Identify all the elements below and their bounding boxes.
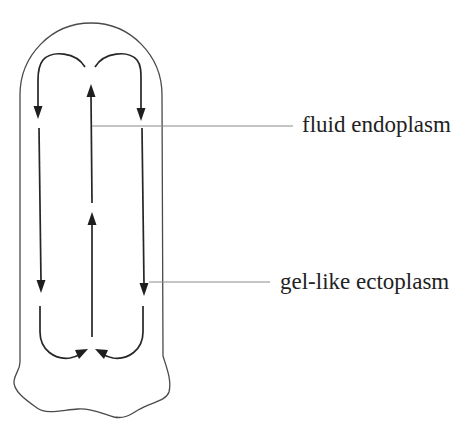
- arrowhead-down-icon: [37, 280, 46, 293]
- center-upper-segment: [91, 95, 92, 203]
- left-middle-segment: [39, 128, 41, 282]
- left-ectoplasm-flow: [34, 54, 89, 359]
- arrowhead-up-icon: [87, 84, 96, 97]
- arrowhead-right-icon: [75, 349, 88, 359]
- arrowhead-down-icon: [137, 108, 146, 121]
- arrowhead-down-icon: [140, 283, 149, 296]
- top-right-arc: [95, 54, 141, 110]
- ectoplasm-label: gel-like ectoplasm: [280, 269, 449, 294]
- top-left-arc: [38, 54, 85, 108]
- arrowhead-left-icon: [95, 349, 108, 359]
- right-middle-segment: [142, 128, 144, 285]
- bottom-left-curve: [40, 306, 81, 358]
- right-ectoplasm-flow: [95, 54, 149, 359]
- bottom-right-curve: [102, 306, 143, 358]
- center-endoplasm-flow: [87, 84, 97, 337]
- cytoplasm-streaming-diagram: fluid endoplasm gel-like ectoplasm: [0, 0, 467, 433]
- endoplasm-label: fluid endoplasm: [302, 112, 451, 137]
- arrowhead-up-icon: [88, 212, 97, 225]
- arrowhead-down-icon: [34, 106, 43, 119]
